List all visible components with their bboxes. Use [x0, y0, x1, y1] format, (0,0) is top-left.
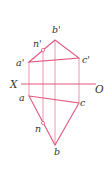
- label-a-prime: a': [16, 57, 24, 68]
- label-b: b: [54, 146, 60, 157]
- label-n-prime: n': [33, 38, 42, 49]
- label-c: c: [80, 97, 86, 108]
- top-view-triangle: [29, 96, 79, 145]
- label-c-prime: c': [82, 54, 90, 65]
- point-n: [41, 121, 44, 124]
- projection-diagram: b' n' a' c' X O a c n b: [0, 0, 111, 169]
- axis-label-x: X: [9, 78, 18, 90]
- label-b-prime: b': [52, 24, 61, 35]
- label-a: a: [19, 92, 25, 103]
- label-n: n: [35, 123, 41, 134]
- point-n-prime: [41, 48, 44, 51]
- axis-label-o: O: [95, 83, 104, 95]
